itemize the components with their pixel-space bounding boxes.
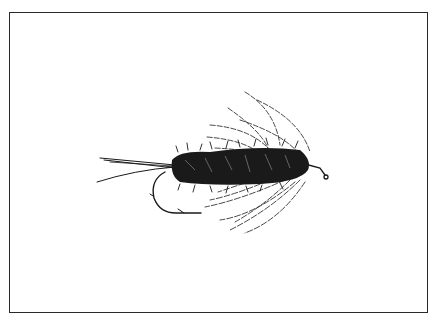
fly-body [166,138,309,193]
lower-hackle [205,178,305,233]
fishing-fly-illustration [0,0,440,327]
tail-fibers [97,158,175,182]
